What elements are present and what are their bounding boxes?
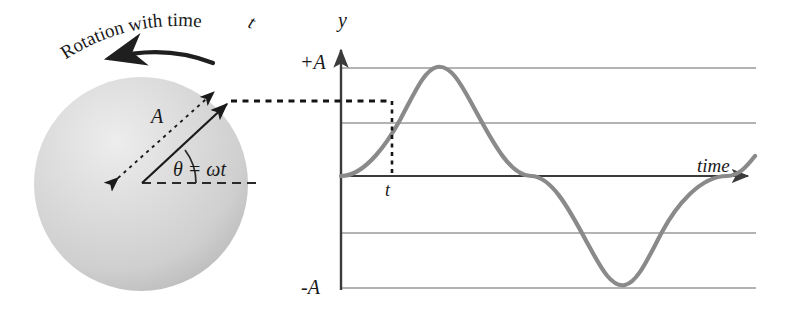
rotation-arrow bbox=[110, 52, 213, 63]
y-axis-label: y bbox=[338, 10, 347, 30]
time-marker-label: t bbox=[385, 181, 390, 199]
gridline-label-minus-a: -A bbox=[301, 277, 320, 297]
rotating-disc bbox=[34, 77, 248, 291]
amplitude-label: A bbox=[151, 106, 163, 126]
figure-canvas: Rotation with time t bbox=[0, 0, 786, 318]
angle-label: θ = ωt bbox=[173, 159, 226, 179]
time-axis-label: time bbox=[697, 156, 730, 175]
gridline-label-plus-a: +A bbox=[300, 52, 326, 72]
rotation-caption-t: t bbox=[246, 11, 259, 33]
rotation-sine-figure: Rotation with time t y +A -A time t A θ … bbox=[0, 0, 786, 318]
